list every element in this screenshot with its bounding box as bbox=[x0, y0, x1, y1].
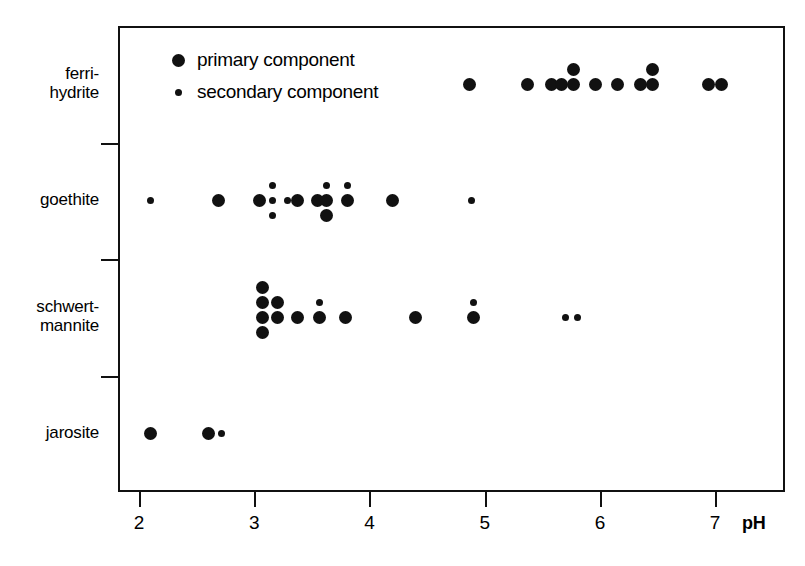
x-tick-label-2: 2 bbox=[119, 512, 159, 534]
data-point-ferrihydrite-8 bbox=[634, 78, 647, 91]
data-point-ferrihydrite-7 bbox=[611, 78, 624, 91]
ph-mineral-scatter-figure: primary component secondary component fe… bbox=[0, 0, 805, 566]
x-tick-5 bbox=[485, 492, 487, 507]
data-point-ferrihydrite-4 bbox=[567, 78, 580, 91]
primary-component-marker-icon bbox=[170, 54, 186, 67]
data-point-ferrihydrite-5 bbox=[567, 63, 580, 76]
data-point-schwertmannite-10 bbox=[409, 311, 422, 324]
data-point-ferrihydrite-10 bbox=[646, 63, 659, 76]
secondary-component-marker-icon bbox=[170, 89, 186, 96]
data-point-schwertmannite-5 bbox=[271, 311, 284, 324]
x-axis-title: pH bbox=[742, 513, 765, 534]
data-point-schwertmannite-0 bbox=[256, 281, 269, 294]
legend-label-primary: primary component bbox=[197, 49, 355, 71]
data-point-schwertmannite-9 bbox=[339, 311, 352, 324]
data-point-ferrihydrite-11 bbox=[702, 78, 715, 91]
x-tick-label-4: 4 bbox=[349, 512, 389, 534]
x-tick-3 bbox=[254, 492, 256, 507]
y-category-label-schwertmannite: schwert- mannite bbox=[36, 297, 99, 335]
data-point-schwertmannite-2 bbox=[256, 311, 269, 324]
data-point-schwertmannite-4 bbox=[271, 296, 284, 309]
x-tick-6 bbox=[600, 492, 602, 507]
data-point-jarosite-1 bbox=[202, 427, 215, 440]
y-tick-2 bbox=[101, 259, 118, 261]
x-tick-4 bbox=[369, 492, 371, 507]
data-point-ferrihydrite-9 bbox=[646, 78, 659, 91]
data-point-ferrihydrite-1 bbox=[521, 78, 534, 91]
y-tick-1 bbox=[101, 143, 118, 145]
x-tick-2 bbox=[139, 492, 141, 507]
x-tick-label-7: 7 bbox=[695, 512, 735, 534]
data-point-schwertmannite-11 bbox=[470, 299, 477, 306]
legend-item-primary: primary component bbox=[170, 44, 378, 76]
legend-item-secondary: secondary component bbox=[170, 76, 378, 108]
data-point-schwertmannite-3 bbox=[256, 326, 269, 339]
x-tick-7 bbox=[715, 492, 717, 507]
y-tick-3 bbox=[101, 376, 118, 378]
x-tick-label-5: 5 bbox=[465, 512, 505, 534]
x-tick-label-3: 3 bbox=[234, 512, 274, 534]
data-point-ferrihydrite-0 bbox=[463, 78, 476, 91]
y-category-label-ferrihydrite: ferri- hydrite bbox=[49, 64, 99, 102]
data-point-ferrihydrite-6 bbox=[589, 78, 602, 91]
data-point-schwertmannite-13 bbox=[562, 314, 569, 321]
y-category-label-jarosite: jarosite bbox=[46, 423, 99, 442]
chart-legend: primary component secondary component bbox=[170, 44, 378, 108]
data-point-schwertmannite-12 bbox=[467, 311, 480, 324]
data-point-schwertmannite-1 bbox=[256, 296, 269, 309]
y-category-label-goethite: goethite bbox=[40, 190, 99, 209]
legend-label-secondary: secondary component bbox=[197, 81, 378, 103]
x-tick-label-6: 6 bbox=[580, 512, 620, 534]
